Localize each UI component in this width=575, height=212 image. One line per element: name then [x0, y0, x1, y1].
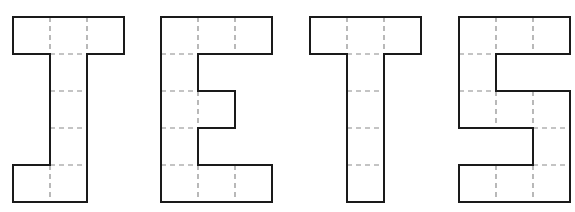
- letter-s-shape: [459, 17, 570, 202]
- letter-s: [459, 17, 570, 202]
- letter-e: [161, 17, 272, 202]
- internal-grid-lines: [347, 17, 384, 165]
- letter-outline: [310, 17, 421, 202]
- letter-t-shape: [310, 17, 421, 202]
- letter-j-shape: [13, 17, 124, 202]
- letter-t: [310, 17, 421, 202]
- letter-outline: [161, 17, 272, 202]
- letter-outline: [13, 17, 124, 202]
- internal-grid-lines: [161, 17, 235, 202]
- letter-j: [13, 17, 124, 202]
- internal-grid-lines: [50, 17, 87, 202]
- internal-grid-lines: [459, 17, 570, 202]
- letter-e-shape: [161, 17, 272, 202]
- letter-grid-diagram: [0, 0, 575, 212]
- letter-outline: [459, 17, 570, 202]
